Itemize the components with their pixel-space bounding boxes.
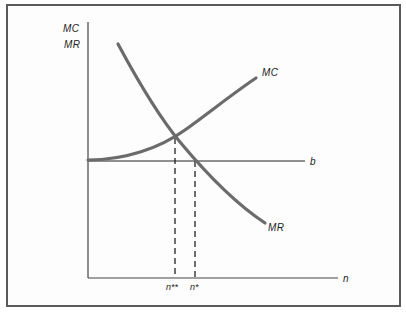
y-axis-label-mr: MR: [64, 39, 81, 50]
economics-diagram: MC MR MC MR b n n** n*: [0, 0, 406, 315]
b-line-label: b: [310, 156, 316, 167]
n-double-star-label: n**: [166, 282, 179, 292]
mc-curve: [88, 78, 256, 160]
y-axis-label-mc: MC: [63, 23, 80, 34]
x-axis-label: n: [343, 273, 349, 284]
mr-curve: [118, 44, 265, 223]
n-star-label: n*: [190, 282, 199, 292]
mr-curve-label: MR: [268, 222, 285, 233]
mc-curve-label: MC: [262, 67, 279, 78]
